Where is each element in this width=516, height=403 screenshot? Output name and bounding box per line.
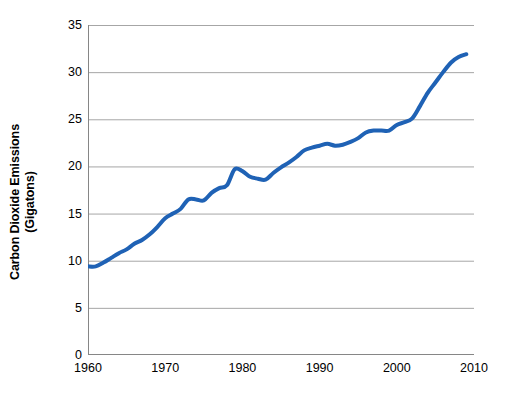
x-tick-label: 1980: [212, 362, 272, 375]
y-axis-title-line-1: Carbon Dioxide Emissions: [8, 124, 23, 280]
y-tick-label: 15: [46, 208, 82, 221]
axis-tick-marks: [88, 26, 474, 356]
x-tick-label: 2000: [367, 362, 427, 375]
x-axis-tick-labels: 196019701980199020002010: [88, 362, 474, 382]
y-tick-label: 10: [46, 255, 82, 268]
y-axis-tick-labels: 05101520253035: [40, 0, 82, 403]
y-axis-title-line-2: (Gigatons): [23, 124, 38, 280]
co2-emissions-line-chart: Carbon Dioxide Emissions (Gigatons) 0510…: [0, 0, 516, 403]
x-tick-label: 1990: [290, 362, 350, 375]
y-tick-label: 0: [46, 349, 82, 362]
plot-svg: [88, 25, 474, 355]
emissions-data-line: [88, 54, 466, 266]
x-tick-label: 1970: [135, 362, 195, 375]
y-tick-label: 30: [46, 66, 82, 79]
y-tick-label: 35: [46, 19, 82, 32]
y-tick-label: 25: [46, 113, 82, 126]
x-tick-label: 1960: [58, 362, 118, 375]
axis-lines: [88, 25, 474, 355]
y-tick-label: 20: [46, 160, 82, 173]
x-tick-label: 2010: [444, 362, 504, 375]
plot-area: [88, 25, 474, 355]
y-tick-label: 5: [46, 302, 82, 315]
